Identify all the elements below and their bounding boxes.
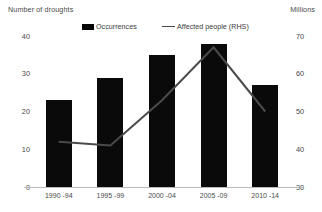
affected-people-line bbox=[59, 47, 265, 145]
category-label: 1990 -94 bbox=[31, 192, 87, 199]
category-label: 1995 -99 bbox=[82, 192, 138, 199]
legend-item-occurrences: Occurrences bbox=[82, 22, 137, 31]
category-label: 2000 -04 bbox=[134, 192, 190, 199]
left-tick-label: 40 bbox=[8, 32, 30, 41]
left-axis-tick-labels: 403020100 bbox=[0, 0, 30, 212]
legend-item-affected-people: Affected people (RHS) bbox=[162, 22, 249, 31]
left-tick-label: 20 bbox=[8, 107, 30, 116]
line-segment-icon bbox=[162, 26, 175, 27]
left-tick-label: 30 bbox=[8, 69, 30, 78]
category-label: 2005 -09 bbox=[186, 192, 242, 199]
right-tick-label: 40 bbox=[296, 145, 304, 154]
line-series-layer bbox=[33, 36, 291, 187]
right-tick-label: 70 bbox=[296, 32, 304, 41]
right-tick-label: 60 bbox=[296, 69, 304, 78]
filled-square-icon bbox=[82, 24, 94, 30]
drought-chart: Number of droughts Millions Occurrences … bbox=[0, 0, 322, 212]
legend-label-affected-people: Affected people (RHS) bbox=[177, 22, 249, 31]
legend-label-occurrences: Occurrences bbox=[96, 22, 137, 31]
category-label: 2010 -14 bbox=[237, 192, 293, 199]
x-axis-line bbox=[24, 187, 304, 188]
chart-legend: Occurrences Affected people (RHS) bbox=[0, 22, 322, 35]
right-tick-label: 50 bbox=[296, 107, 304, 116]
right-axis-tick-labels: 7060504030 bbox=[296, 0, 322, 212]
left-tick-label: 10 bbox=[8, 145, 30, 154]
